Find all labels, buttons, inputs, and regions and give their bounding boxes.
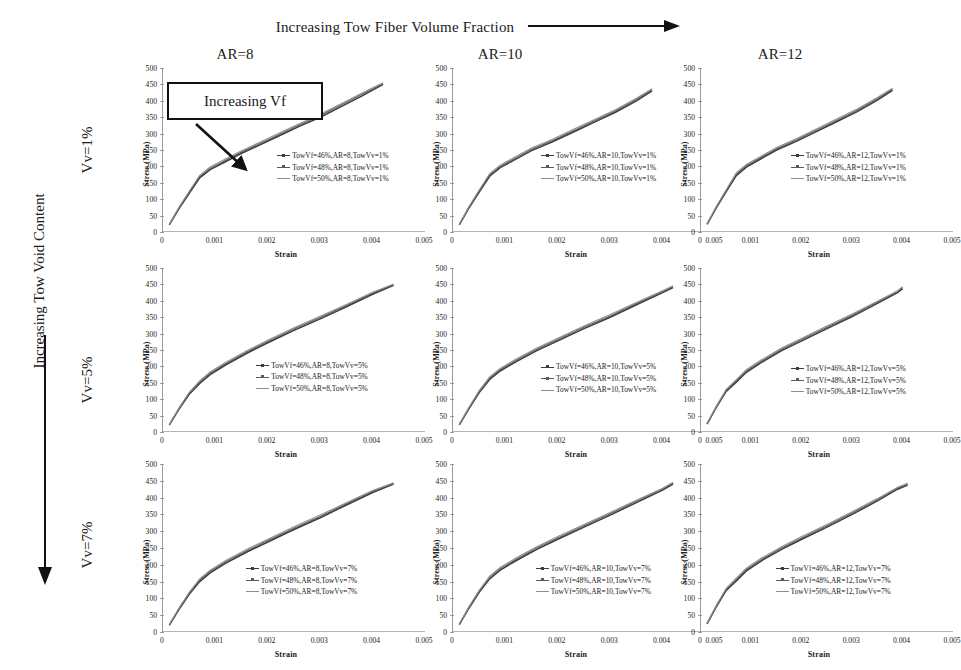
y-tick-label: 400 (684, 494, 695, 501)
y-tick-label: 200 (436, 363, 447, 370)
increasing-vf-annotation-label: Increasing Vf (204, 93, 286, 110)
y-tick-mark (450, 232, 454, 233)
y-tick-mark (698, 232, 702, 233)
y-axis-ticks: 050100150200250300350400450500 (426, 464, 450, 632)
x-axis-label: Strain (565, 250, 588, 259)
x-tick-label: 0.003 (601, 636, 618, 645)
y-tick-label: 300 (146, 130, 157, 137)
row-header-vv7: Vv=7% (79, 510, 99, 580)
x-tick-label: 0.003 (843, 636, 860, 645)
series-curves (163, 268, 425, 432)
x-tick-label: 0.004 (893, 436, 910, 445)
y-tick-label: 350 (684, 511, 695, 518)
y-tick-label: 100 (146, 595, 157, 602)
series-line (707, 485, 908, 624)
legend-swatch-icon (536, 591, 549, 592)
legend-label: TowVf=48%,AR=12,TowVv=5% (806, 375, 906, 387)
increasing-vf-annotation-arrow-icon (192, 120, 262, 180)
legend-swatch-icon (277, 178, 290, 179)
x-tick-label: 0.003 (311, 236, 328, 245)
legend-item: TowVf=50%,AR=12,TowVv=7% (776, 586, 891, 598)
y-tick-label: 200 (146, 363, 157, 370)
x-tick-label: 0.001 (496, 436, 513, 445)
plot-area: 050100150200250300350400450500TowVf=46%,… (162, 464, 424, 632)
series-line (169, 483, 393, 624)
x-tick-label: 0.002 (792, 636, 809, 645)
y-tick-label: 100 (684, 196, 695, 203)
series-line (707, 484, 908, 623)
y-tick-mark (450, 632, 454, 633)
y-tick-label: 0 (153, 229, 157, 236)
legend-swatch-icon (246, 580, 259, 581)
y-tick-label: 0 (443, 429, 447, 436)
x-tick-label: 0.003 (843, 436, 860, 445)
series-curves (163, 464, 425, 632)
plot-area: 050100150200250300350400450500TowVf=46%,… (700, 464, 952, 632)
legend-item: TowVf=46%,AR=8,TowVv=5% (256, 360, 367, 372)
legend-label: TowVf=46%,AR=8,TowVv=7% (261, 563, 357, 575)
legend-label: TowVf=48%,AR=10,TowVv=5% (556, 373, 656, 385)
legend-label: TowVf=50%,AR=12,TowVv=5% (806, 386, 906, 398)
chart-legend: TowVf=46%,AR=12,TowVv=5%TowVf=48%,AR=12,… (791, 363, 906, 398)
x-axis-label: Strain (565, 650, 588, 659)
legend-item: TowVf=50%,AR=10,TowVv=5% (541, 384, 656, 396)
legend-item: TowVf=50%,AR=8,TowVv=7% (246, 586, 357, 598)
series-curves (701, 268, 953, 432)
plot-box (700, 464, 953, 632)
legend-label: TowVf=46%,AR=8,TowVv=5% (271, 360, 367, 372)
legend-item: TowVf=50%,AR=12,TowVv=1% (791, 173, 906, 185)
y-tick-label: 0 (691, 629, 695, 636)
y-tick-label: 300 (146, 330, 157, 337)
legend-swatch-icon (541, 390, 554, 391)
legend-label: TowVf=48%,AR=8,TowVv=5% (271, 371, 367, 383)
y-tick-label: 200 (436, 561, 447, 568)
y-tick-label: 150 (684, 379, 695, 386)
y-tick-label: 0 (153, 629, 157, 636)
arrow-shaft (528, 25, 664, 27)
y-tick-label: 450 (436, 477, 447, 484)
x-tick-label: 0 (698, 636, 702, 645)
y-tick-label: 150 (436, 578, 447, 585)
y-tick-label: 150 (684, 179, 695, 186)
x-axis-label-wrap: Strain (128, 650, 428, 662)
y-tick-label: 500 (684, 461, 695, 468)
series-line (459, 287, 673, 425)
x-tick-label: 0 (698, 436, 702, 445)
legend-label: TowVf=50%,AR=8,TowVv=7% (261, 586, 357, 598)
y-tick-label: 150 (436, 179, 447, 186)
legend-item: TowVf=48%,AR=10,TowVv=7% (536, 575, 651, 587)
arrow-head (664, 20, 680, 32)
x-tick-label: 0 (160, 436, 164, 445)
series-line (707, 289, 903, 424)
y-tick-label: 0 (443, 629, 447, 636)
y-tick-label: 400 (436, 97, 447, 104)
chart-legend: TowVf=46%,AR=8,TowVv=7%TowVf=48%,AR=8,To… (246, 563, 357, 598)
legend-swatch-icon (536, 568, 549, 569)
x-tick-label: 0.002 (548, 236, 565, 245)
y-tick-label: 450 (436, 81, 447, 88)
legend-label: TowVf=48%,AR=8,TowVv=7% (261, 575, 357, 587)
legend-label: TowVf=48%,AR=10,TowVv=1% (556, 162, 656, 174)
plot-area: 050100150200250300350400450500TowVf=46%,… (700, 268, 952, 432)
y-tick-label: 50 (439, 612, 447, 619)
legend-swatch-icon (791, 167, 804, 168)
legend-label: TowVf=46%,AR=12,TowVv=5% (806, 363, 906, 375)
legend-swatch-icon (791, 391, 804, 392)
series-line (459, 483, 673, 624)
x-tick-label: 0.002 (258, 436, 275, 445)
legend-label: TowVf=48%,AR=12,TowVv=7% (791, 575, 891, 587)
y-tick-label: 150 (146, 578, 157, 585)
y-tick-label: 300 (684, 330, 695, 337)
y-tick-label: 250 (146, 347, 157, 354)
legend-swatch-icon (541, 367, 554, 368)
y-axis-ticks: 050100150200250300350400450500 (426, 268, 450, 432)
legend-item: TowVf=48%,AR=12,TowVv=7% (776, 575, 891, 587)
legend-swatch-icon (256, 365, 269, 366)
x-axis-label: Strain (275, 250, 298, 259)
legend-swatch-icon (776, 580, 789, 581)
x-axis-ticks: 00.0010.0020.0030.0040.005 (700, 636, 952, 648)
y-tick-label: 50 (149, 612, 157, 619)
x-tick-label: 0.005 (943, 236, 960, 245)
plot-box (162, 268, 425, 432)
x-tick-label: 0.002 (258, 636, 275, 645)
